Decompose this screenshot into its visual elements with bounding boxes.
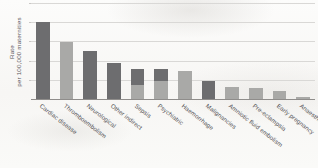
bar-slot	[244, 3, 268, 99]
bar-slot	[220, 3, 244, 99]
x-axis-line	[31, 99, 315, 100]
y-axis-title-line2: per 100,000 maternities	[15, 17, 22, 87]
bar[interactable]	[36, 22, 50, 99]
plot-area	[31, 3, 315, 100]
bar[interactable]	[154, 69, 168, 99]
bar-segment-lower	[131, 85, 145, 99]
bar-segment-upper	[202, 81, 216, 99]
bar-segment-upper	[36, 22, 50, 99]
bar-slot	[78, 3, 102, 99]
bar[interactable]	[131, 69, 145, 99]
bar-slot	[268, 3, 292, 99]
bar[interactable]	[178, 71, 192, 99]
bar-segment-upper	[131, 69, 145, 84]
bar-segment-lower	[249, 88, 263, 99]
bar-segment-lower	[225, 87, 239, 99]
bar-slot	[197, 3, 221, 99]
bar[interactable]	[60, 42, 74, 99]
bar-slot	[149, 3, 173, 99]
x-axis-label: Thromboembolism	[62, 102, 107, 140]
bar-segment-lower	[60, 42, 74, 99]
bar-slot	[31, 3, 55, 99]
bar-segment-upper	[154, 69, 168, 81]
y-axis-title: per 100,000 maternities Rate	[2, 6, 28, 98]
bar-segment-upper	[107, 63, 121, 99]
bar-series	[31, 3, 315, 99]
bar[interactable]	[107, 63, 121, 99]
x-axis-label: Sepsis	[133, 102, 152, 119]
bar[interactable]	[225, 87, 239, 99]
bar[interactable]	[273, 91, 287, 99]
bar-segment-lower	[273, 91, 287, 99]
bar-segment-lower	[154, 81, 168, 99]
bar-slot	[102, 3, 126, 99]
bar-segment-lower	[178, 71, 192, 99]
bar[interactable]	[249, 88, 263, 99]
bar-chart: per 100,000 maternities Rate Cardiac dis…	[0, 0, 318, 168]
bar-slot	[126, 3, 150, 99]
x-axis-labels: Cardiac diseaseThromboembolismNeurologic…	[31, 101, 315, 165]
bar-slot	[173, 3, 197, 99]
bar[interactable]	[83, 51, 97, 99]
bar[interactable]	[202, 81, 216, 99]
bar-segment-upper	[83, 51, 97, 99]
bar-slot	[291, 3, 315, 99]
bar-slot	[55, 3, 79, 99]
